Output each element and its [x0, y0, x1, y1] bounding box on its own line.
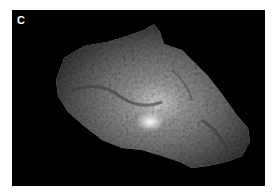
- rock-highlight: [136, 112, 164, 132]
- panel-label: C: [17, 15, 25, 26]
- figure-panel: C: [12, 10, 265, 186]
- rock-specimen-image: [12, 10, 265, 186]
- rock-body: [56, 24, 250, 168]
